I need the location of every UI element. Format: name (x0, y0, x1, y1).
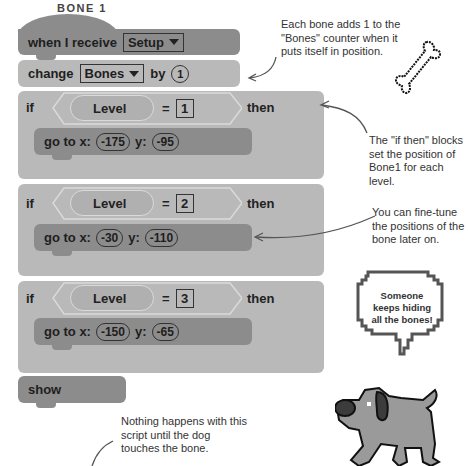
bone-icon (393, 38, 445, 96)
arrow-to-if-block (322, 105, 367, 133)
arrow-to-dog (92, 441, 113, 466)
speech-bubble-text: Someone keeps hiding all the bones! (370, 290, 434, 326)
arrow-to-goto-block (256, 216, 375, 238)
dog-sprite-icon (335, 382, 465, 466)
